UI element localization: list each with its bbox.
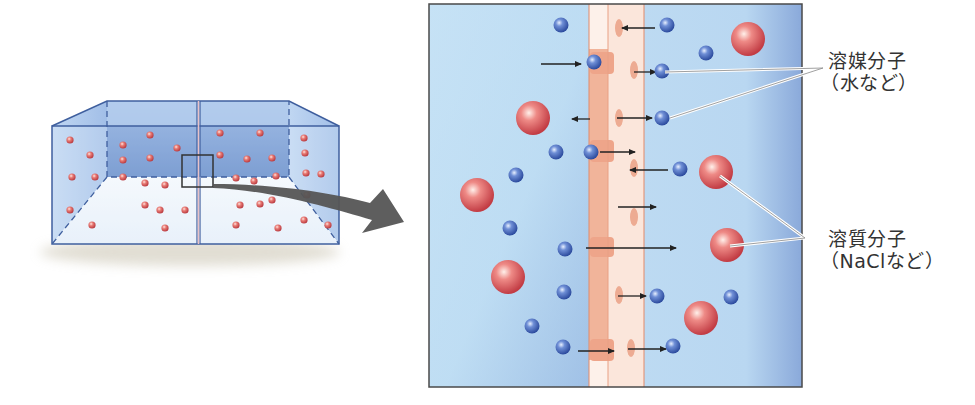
membrane-pore bbox=[627, 339, 635, 357]
solute-dot bbox=[216, 151, 223, 158]
solute-dot bbox=[268, 196, 275, 203]
membrane-pore bbox=[615, 286, 623, 304]
solute-dot bbox=[272, 172, 279, 179]
solute-molecule bbox=[516, 101, 550, 135]
membrane-pore bbox=[630, 159, 638, 177]
solute-dot bbox=[86, 151, 93, 158]
solute-molecule bbox=[491, 260, 525, 294]
solute-dot bbox=[300, 216, 307, 223]
solute-dot bbox=[161, 181, 168, 188]
solute-dot bbox=[301, 149, 308, 156]
solute-dot bbox=[119, 156, 126, 163]
solute-dot bbox=[119, 173, 126, 180]
solute-molecule bbox=[684, 301, 718, 335]
solvent-molecule bbox=[666, 339, 681, 354]
solute-dot bbox=[161, 224, 168, 231]
solvent-molecule bbox=[554, 18, 569, 33]
solute-dot bbox=[232, 174, 239, 181]
solute-dot bbox=[68, 173, 75, 180]
solute-dot bbox=[141, 179, 148, 186]
solute-dot bbox=[141, 201, 148, 208]
solute-dot bbox=[268, 154, 275, 161]
solvent-molecule bbox=[503, 221, 518, 236]
solvent-molecule bbox=[525, 319, 540, 334]
solute-dot bbox=[216, 129, 223, 136]
solute-dot bbox=[274, 224, 281, 231]
membrane-pore bbox=[630, 208, 638, 226]
solute-molecule bbox=[699, 155, 733, 189]
solvent-molecule bbox=[549, 145, 564, 160]
solute-molecule bbox=[731, 22, 765, 56]
solute-label: 溶質分子 （NaClなど） bbox=[828, 228, 944, 272]
solvent-molecule bbox=[673, 162, 688, 177]
solvent-molecule bbox=[699, 46, 714, 61]
solute-dot bbox=[256, 129, 263, 136]
solute-dot bbox=[91, 173, 98, 180]
membrane-pore bbox=[630, 61, 638, 79]
solvent-molecule bbox=[558, 242, 573, 257]
membrane-pore bbox=[615, 19, 623, 37]
solute-dot bbox=[66, 206, 73, 213]
solute-dot bbox=[317, 170, 324, 177]
solvent-molecule bbox=[724, 290, 739, 305]
solute-dot bbox=[236, 201, 243, 208]
solvent-molecule bbox=[655, 111, 670, 126]
solvent-molecule bbox=[587, 55, 602, 70]
solute-dot bbox=[300, 134, 307, 141]
solute-dot bbox=[146, 131, 153, 138]
solute-dot bbox=[243, 155, 250, 162]
solute-dot bbox=[88, 221, 95, 228]
solute-dot bbox=[302, 169, 309, 176]
solute-dot bbox=[181, 206, 188, 213]
solute-dot bbox=[146, 154, 153, 161]
solute-dot bbox=[250, 177, 257, 184]
solute-dot bbox=[119, 141, 126, 148]
solute-dot bbox=[232, 221, 239, 228]
solvent-molecule bbox=[660, 18, 675, 33]
solute-dot bbox=[173, 144, 180, 151]
solute-dot bbox=[324, 221, 331, 228]
solvent-label-line2: （水など） bbox=[820, 72, 918, 94]
solute-dot bbox=[156, 206, 163, 213]
solvent-molecule bbox=[556, 340, 571, 355]
solvent-molecule bbox=[509, 168, 524, 183]
solute-molecule bbox=[460, 178, 494, 212]
solute-dot bbox=[256, 200, 263, 207]
tank-illustration bbox=[40, 101, 340, 266]
solute-dot bbox=[66, 136, 73, 143]
solute-label-line1: 溶質分子 bbox=[828, 228, 944, 250]
solvent-molecule bbox=[557, 285, 572, 300]
solvent-molecule bbox=[650, 289, 665, 304]
solvent-label: 溶媒分子 （水など） bbox=[828, 50, 918, 94]
solvent-label-line1: 溶媒分子 bbox=[828, 50, 918, 72]
solvent-molecule bbox=[584, 145, 599, 160]
solute-label-line2: （NaClなど） bbox=[820, 250, 944, 272]
